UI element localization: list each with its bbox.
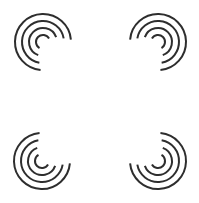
arc-ring-1 (130, 14, 186, 70)
concentric-arcs-icon-bottom-left (7, 126, 77, 196)
arc-ring-3 (145, 28, 172, 55)
arcs-svg (8, 7, 78, 77)
arc-ring-4 (36, 35, 49, 48)
concentric-arcs-icon-top-right (123, 7, 193, 77)
arc-ring-3 (145, 148, 172, 175)
arc-ring-4 (35, 155, 48, 168)
arc-ring-3 (29, 28, 56, 55)
arcs-svg (123, 7, 193, 77)
arcs-svg (123, 126, 193, 196)
arc-ring-1 (14, 133, 70, 189)
arc-ring-4 (152, 35, 165, 48)
concentric-arcs-icon-bottom-right (123, 126, 193, 196)
arc-ring-3 (28, 148, 55, 175)
concentric-arcs-icon-top-left (8, 7, 78, 77)
arc-ring-4 (152, 155, 165, 168)
arcs-svg (7, 126, 77, 196)
arc-ring-1 (130, 133, 186, 189)
arc-ring-1 (15, 14, 71, 70)
